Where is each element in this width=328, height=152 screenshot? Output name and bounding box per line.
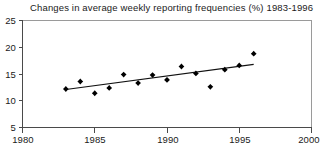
y-tick-label-10: 10 [5, 95, 16, 106]
chart-figure: Changes in average weekly reporting freq… [0, 0, 328, 152]
x-tick-label-1995: 1995 [229, 134, 251, 145]
data-point [164, 77, 170, 83]
y-tick-label-20: 20 [5, 42, 16, 53]
y-axis-ticks [19, 21, 23, 128]
data-point [77, 79, 83, 85]
data-point [135, 80, 141, 86]
y-tick-label-15: 15 [5, 69, 16, 80]
data-point [63, 86, 69, 92]
x-tick-label-2000: 2000 [298, 134, 320, 145]
data-point [179, 64, 185, 70]
x-axis-ticks [23, 128, 312, 133]
scatter-plot-canvas: 25 20 15 10 5 1980 1985 1990 1995 2000 [0, 0, 328, 152]
y-tick-label-5: 5 [11, 122, 16, 133]
data-point-group [63, 51, 257, 96]
x-tick-label-1985: 1985 [84, 134, 106, 145]
data-point [92, 90, 98, 96]
data-point [251, 51, 257, 57]
data-point [121, 72, 127, 78]
y-tick-label-25: 25 [5, 15, 16, 26]
data-point [236, 63, 242, 69]
x-tick-label-1980: 1980 [12, 134, 34, 145]
data-point [207, 84, 213, 90]
x-tick-label-1990: 1990 [157, 134, 179, 145]
data-point [106, 85, 112, 91]
